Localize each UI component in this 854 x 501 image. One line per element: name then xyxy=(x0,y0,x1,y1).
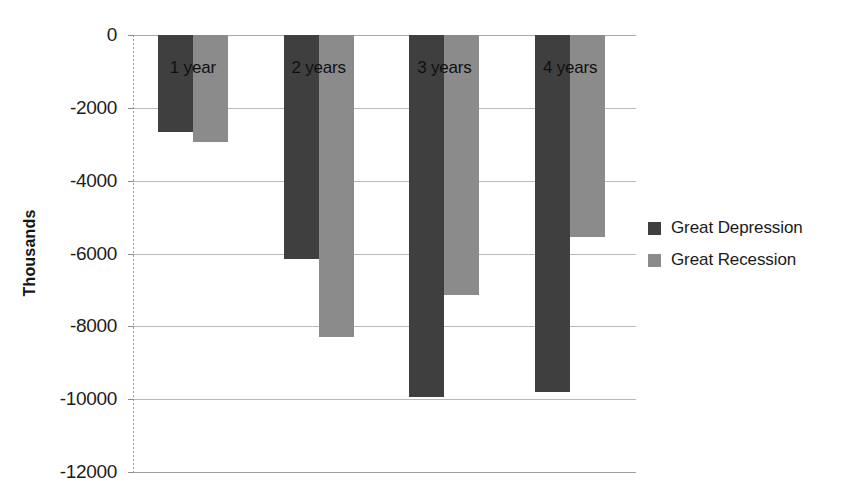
y-axis-title-text: Thousands xyxy=(21,209,39,296)
y-axis-title: Thousands xyxy=(10,178,50,328)
bar-chart: Thousands 0-2000-4000-6000-8000-10000-12… xyxy=(0,0,854,501)
legend-swatch-icon xyxy=(648,222,661,235)
gridline xyxy=(133,472,636,473)
y-tick-label: -10000 xyxy=(48,388,126,410)
bar[interactable] xyxy=(193,35,228,142)
y-tick-mark xyxy=(128,181,134,182)
y-tick-mark xyxy=(128,108,134,109)
y-tick-label: 0 xyxy=(48,24,126,46)
y-tick-mark xyxy=(128,35,134,36)
y-tick-mark xyxy=(128,254,134,255)
legend-item[interactable]: Great Recession xyxy=(648,250,848,270)
plot-area: 1 year2 years3 years4 years xyxy=(133,35,636,472)
bar[interactable] xyxy=(535,35,570,392)
y-tick-mark xyxy=(128,399,134,400)
y-tick-label: -6000 xyxy=(48,243,126,265)
legend-item[interactable]: Great Depression xyxy=(648,218,848,238)
bar[interactable] xyxy=(284,35,319,259)
y-tick-label: -8000 xyxy=(48,315,126,337)
y-axis-tick-labels: 0-2000-4000-6000-8000-10000-12000 xyxy=(48,0,126,501)
bar-group: 2 years xyxy=(284,35,354,472)
y-tick-mark xyxy=(128,472,134,473)
y-tick-label: -12000 xyxy=(48,461,126,483)
bar[interactable] xyxy=(444,35,479,295)
legend: Great DepressionGreat Recession xyxy=(648,218,848,282)
bar-group: 3 years xyxy=(409,35,479,472)
legend-swatch-icon xyxy=(648,254,661,267)
bar-group: 1 year xyxy=(158,35,228,472)
bar[interactable] xyxy=(409,35,444,397)
legend-label: Great Depression xyxy=(671,218,803,238)
bar-group: 4 years xyxy=(535,35,605,472)
bar[interactable] xyxy=(570,35,605,237)
y-tick-mark xyxy=(128,326,134,327)
bar[interactable] xyxy=(319,35,354,337)
legend-label: Great Recession xyxy=(671,250,796,270)
y-tick-label: -2000 xyxy=(48,97,126,119)
bar[interactable] xyxy=(158,35,193,132)
y-tick-label: -4000 xyxy=(48,170,126,192)
